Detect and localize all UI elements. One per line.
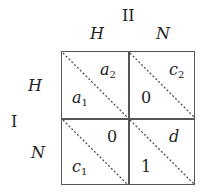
row-payoff: c1 — [72, 159, 87, 177]
cell-n-h: 0 c1 — [62, 119, 129, 186]
diagonal-divider-icon — [129, 119, 196, 186]
col-payoff: 0 — [107, 129, 117, 145]
row-payoff: 1 — [141, 159, 151, 175]
row-strategy-h: H — [28, 78, 42, 94]
row-payoff: 0 — [141, 90, 151, 106]
cell-h-n: c2 0 — [129, 52, 196, 119]
diagonal-divider-icon — [62, 52, 129, 119]
col-payoff: d — [169, 129, 179, 145]
column-player-label: II — [122, 8, 135, 24]
col-payoff: c2 — [169, 62, 184, 80]
row-payoff: a1 — [72, 90, 88, 108]
row-strategy-n: N — [31, 145, 45, 161]
col-payoff: a2 — [100, 62, 116, 80]
column-strategy-h: H — [90, 26, 104, 42]
payoff-matrix: a2 a1 c2 0 0 c1 d 1 — [61, 51, 195, 185]
diagonal-divider-icon — [129, 52, 196, 119]
cell-n-n: d 1 — [129, 119, 196, 186]
column-strategy-n: N — [156, 26, 170, 42]
row-player-label: I — [11, 114, 17, 130]
cell-h-h: a2 a1 — [62, 52, 129, 119]
